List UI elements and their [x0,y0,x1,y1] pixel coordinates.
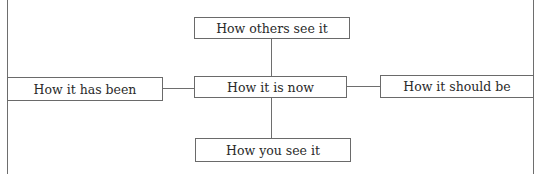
node-bottom: How you see it [195,138,351,162]
node-left: How it has been [7,77,163,101]
connector-top-center [271,38,272,76]
connector-center-right [346,86,380,87]
connector-center-bottom [271,97,272,138]
node-top: How others see it [194,17,350,39]
connector-left-center [162,88,194,89]
node-center: How it is now [194,76,347,98]
node-right: How it should be [380,75,534,98]
